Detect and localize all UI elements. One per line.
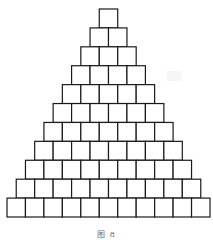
pyramid-square bbox=[25, 198, 43, 217]
pyramid-row-8 bbox=[35, 141, 183, 160]
pyramid-row-9 bbox=[25, 160, 191, 179]
pyramid-square bbox=[62, 85, 80, 104]
pyramid-square bbox=[99, 47, 117, 66]
pyramid-row-11 bbox=[7, 198, 210, 217]
pyramid-square bbox=[109, 141, 127, 160]
pyramid-square bbox=[136, 85, 154, 104]
pyramid-square bbox=[81, 47, 99, 66]
pyramid-row-4 bbox=[72, 66, 146, 85]
pyramid-square bbox=[118, 85, 136, 104]
pyramid-square bbox=[136, 198, 154, 217]
pyramid-square bbox=[145, 179, 163, 198]
pyramid-square bbox=[164, 141, 182, 160]
pyramid-square bbox=[81, 85, 99, 104]
pyramid-square bbox=[35, 141, 53, 160]
pyramid-square bbox=[155, 160, 173, 179]
pyramid-row-1 bbox=[99, 9, 117, 28]
pyramid-square bbox=[155, 122, 173, 141]
pyramid-square bbox=[90, 104, 108, 123]
pyramid-square bbox=[16, 179, 34, 198]
pyramid-square bbox=[53, 141, 71, 160]
pyramid-square bbox=[118, 198, 136, 217]
pyramid-row-5 bbox=[62, 85, 154, 104]
pyramid-square bbox=[72, 141, 90, 160]
pyramid-square bbox=[127, 104, 145, 123]
pyramid-square bbox=[99, 9, 117, 28]
pyramid-square bbox=[81, 160, 99, 179]
pyramid-square bbox=[81, 122, 99, 141]
pyramid-square bbox=[192, 198, 210, 217]
pyramid-row-6 bbox=[53, 104, 164, 123]
pyramid-square bbox=[35, 179, 53, 198]
pyramid-square bbox=[118, 160, 136, 179]
pyramid-square bbox=[145, 141, 163, 160]
pyramid-square bbox=[136, 160, 154, 179]
pyramid-square bbox=[72, 179, 90, 198]
pyramid-square bbox=[25, 160, 43, 179]
pyramid-square bbox=[62, 160, 80, 179]
pyramid-square bbox=[44, 122, 62, 141]
pyramid-square bbox=[155, 198, 173, 217]
pyramid-square bbox=[99, 160, 117, 179]
pyramid-square bbox=[109, 66, 127, 85]
pyramid-square bbox=[173, 160, 191, 179]
pyramid-square bbox=[81, 198, 99, 217]
pyramid-square bbox=[53, 179, 71, 198]
faint-bleedthrough-mark bbox=[167, 71, 181, 81]
pyramid-square bbox=[182, 179, 200, 198]
pyramid-row-10 bbox=[16, 179, 201, 198]
pyramid-square bbox=[109, 179, 127, 198]
pyramid-square bbox=[118, 47, 136, 66]
pyramid-row-2 bbox=[90, 28, 127, 47]
pyramid-square bbox=[62, 122, 80, 141]
pyramid-square bbox=[145, 104, 163, 123]
pyramid-square bbox=[127, 179, 145, 198]
pyramid-square bbox=[72, 104, 90, 123]
pyramid-square bbox=[72, 66, 90, 85]
pyramid-row-7 bbox=[44, 122, 173, 141]
pyramid-square bbox=[99, 122, 117, 141]
pyramid-square bbox=[118, 122, 136, 141]
pyramid-square bbox=[90, 141, 108, 160]
pyramid-square bbox=[99, 85, 117, 104]
pyramid-rows bbox=[7, 9, 210, 217]
pyramid-square bbox=[53, 104, 71, 123]
pyramid-square bbox=[7, 198, 25, 217]
pyramid-square bbox=[173, 198, 191, 217]
pyramid-square bbox=[90, 179, 108, 198]
pyramid-square bbox=[44, 198, 62, 217]
pyramid-square bbox=[62, 198, 80, 217]
pyramid-square bbox=[109, 104, 127, 123]
pyramid-row-3 bbox=[81, 47, 136, 66]
pyramid-square bbox=[109, 28, 127, 47]
pyramid-square bbox=[164, 179, 182, 198]
pyramid-square bbox=[127, 66, 145, 85]
pyramid-square bbox=[90, 28, 108, 47]
pyramid-square bbox=[44, 160, 62, 179]
pyramid-square bbox=[127, 141, 145, 160]
pyramid-diagram bbox=[0, 0, 213, 240]
pyramid-square bbox=[136, 122, 154, 141]
pyramid-square bbox=[99, 198, 117, 217]
figure-caption: 图 8 bbox=[0, 228, 213, 239]
pyramid-square bbox=[90, 66, 108, 85]
